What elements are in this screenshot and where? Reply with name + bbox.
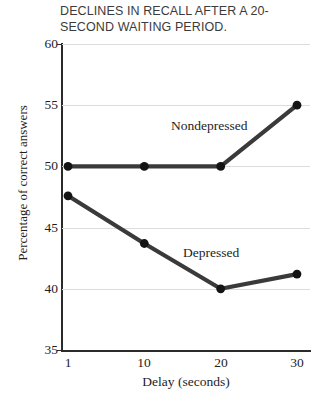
- series-plot: [0, 0, 332, 399]
- series-line: [68, 196, 297, 289]
- chart-figure: DECLINES IN RECALL AFTER A 20- SECOND WA…: [0, 0, 332, 399]
- series-depressed: [64, 191, 302, 293]
- series-line: [68, 105, 297, 166]
- data-point-marker: [140, 162, 149, 171]
- data-point-marker: [216, 284, 225, 293]
- data-point-marker: [64, 162, 73, 171]
- series-label-depressed: Depressed: [183, 245, 239, 261]
- data-point-marker: [293, 101, 302, 110]
- data-point-marker: [64, 191, 73, 200]
- series-nondepressed: [64, 101, 302, 171]
- data-point-marker: [140, 239, 149, 248]
- data-point-marker: [216, 162, 225, 171]
- series-label-nondepressed: Nondepressed: [171, 118, 247, 134]
- data-point-marker: [293, 270, 302, 279]
